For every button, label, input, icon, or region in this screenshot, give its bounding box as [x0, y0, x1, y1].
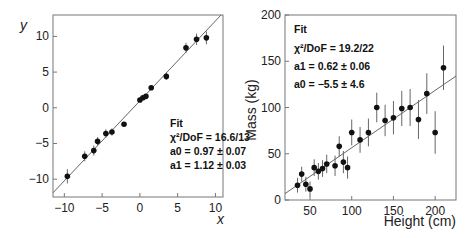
data-point	[324, 161, 330, 167]
x-axis-label: x	[216, 211, 225, 227]
data-point	[109, 129, 115, 135]
chart-canvas: −10−50510−10−50510yxFitχ²/DoF = 16.6/13a…	[0, 0, 467, 238]
data-point	[204, 35, 210, 41]
data-point	[399, 106, 405, 112]
data-point	[332, 163, 338, 169]
data-point	[307, 186, 313, 192]
fit-a0: a0 = 0.97 ± 0.07	[170, 145, 246, 157]
data-point	[374, 105, 380, 111]
data-point	[441, 65, 447, 71]
x-tick-label: −5	[95, 201, 109, 215]
mass-height-chart: 50100150200050100150200Mass (kg)Height (…	[243, 8, 456, 229]
y-tick-label: −5	[35, 136, 49, 150]
data-point	[336, 144, 342, 150]
fit-line	[285, 76, 456, 194]
data-point	[432, 130, 438, 136]
fit-title: Fit	[170, 117, 183, 129]
fit-a0: a0 = −5.5 ± 4.6	[294, 78, 365, 90]
data-point	[148, 85, 154, 91]
data-point	[341, 159, 347, 165]
data-point	[320, 166, 326, 172]
figure: −10−50510−10−50510yxFitχ²/DoF = 16.6/13a…	[0, 0, 467, 238]
data-point	[391, 115, 397, 121]
data-point	[95, 139, 101, 145]
data-point	[143, 94, 149, 100]
y-tick-label: 0	[274, 193, 281, 207]
fit-chi2: χ²/DoF = 19.2/22	[294, 42, 374, 54]
y-tick-label: 200	[261, 8, 281, 22]
data-point	[183, 45, 189, 51]
data-point	[357, 137, 363, 143]
x-tick-label: 5	[174, 201, 181, 215]
y-tick-label: 5	[42, 65, 49, 79]
fit-title: Fit	[294, 23, 307, 35]
data-point	[349, 130, 355, 136]
x-axis-label: Height (cm)	[384, 213, 456, 229]
data-point	[311, 165, 317, 171]
data-point	[91, 148, 97, 154]
y-tick-label: 100	[261, 101, 281, 115]
data-point	[121, 121, 127, 127]
data-point	[194, 36, 200, 42]
y-tick-label: 0	[42, 101, 49, 115]
fit-a1: a1 = 0.62 ± 0.06	[294, 60, 370, 72]
data-point	[65, 174, 71, 180]
x-tick-label: 0	[137, 201, 144, 215]
y-tick-label: 10	[36, 29, 50, 43]
x-tick-label: 100	[342, 204, 362, 218]
data-point	[345, 165, 351, 171]
data-point	[295, 182, 301, 188]
x-tick-label: 50	[303, 204, 317, 218]
fit-chi2: χ²/DoF = 16.6/13	[170, 131, 250, 143]
y-tick-label: 50	[268, 147, 282, 161]
y-axis-label: y	[19, 17, 28, 33]
data-point	[407, 105, 413, 111]
fit-a1: a1 = 1.12 ± 0.03	[170, 159, 246, 171]
x-tick-label: −10	[54, 201, 75, 215]
data-point	[416, 117, 422, 123]
data-point	[366, 130, 372, 136]
data-point	[299, 171, 305, 177]
data-point	[303, 181, 309, 187]
y-axis-label: Mass (kg)	[243, 79, 259, 140]
data-point	[382, 118, 388, 124]
data-point	[82, 154, 88, 160]
data-point	[424, 91, 430, 97]
y-tick-label: 150	[261, 54, 281, 68]
data-point	[164, 74, 170, 80]
linear-fit-chart: −10−50510−10−50510yxFitχ²/DoF = 16.6/13a…	[19, 13, 250, 227]
y-tick-label: −10	[29, 172, 50, 186]
data-point	[103, 131, 109, 137]
